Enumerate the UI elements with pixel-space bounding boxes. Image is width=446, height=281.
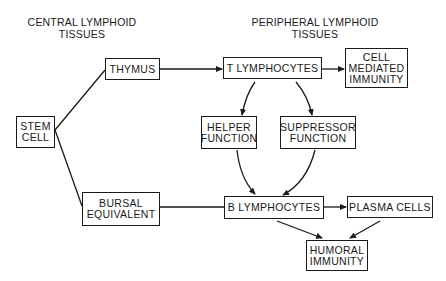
node-bursal-line2: EQUIVALENT [87,209,156,220]
node-bursal-equivalent: BURSAL EQUIVALENT [82,192,160,226]
edge-stem-bursal [55,130,82,206]
node-cmi-line3: IMMUNITY [349,74,405,85]
node-thymus-label: THYMUS [109,64,155,75]
edge-blymph-humoral [277,221,322,238]
node-stem-cell: STEM CELL [16,116,55,148]
node-suppressor-line1: SUPPRESSOR [280,122,356,133]
heading-central-line1: CENTRAL LYMPHOID [22,16,142,28]
node-helper-line1: HELPER [201,122,258,133]
edge-helper-blymph [237,150,255,194]
node-helper-function: HELPER FUNCTION [201,116,257,149]
heading-central-line2: TISSUES [22,28,142,40]
heading-central-lymphoid: CENTRAL LYMPHOID TISSUES [22,16,142,40]
node-humoral-line2: IMMUNITY [310,256,365,267]
node-b-lymphocytes-label: B LYMPHOCYTES [228,202,320,213]
edge-tlymph-suppressor [296,82,312,115]
node-helper-line2: FUNCTION [201,133,258,144]
node-suppressor-line2: FUNCTION [280,133,356,144]
node-t-lymphocytes: T LYMPHOCYTES [223,57,322,79]
edge-stem-thymus [55,70,105,130]
node-b-lymphocytes: B LYMPHOCYTES [224,196,324,219]
node-plasma-cells: PLASMA CELLS [347,196,433,218]
node-t-lymphocytes-label: T LYMPHOCYTES [227,63,319,74]
node-thymus: THYMUS [105,58,160,80]
edge-suppressor-blymph [283,150,315,195]
node-cmi-line2: MEDIATED [349,63,405,74]
heading-peripheral-lymphoid: PERIPHERAL LYMPHOID TISSUES [250,16,380,40]
node-suppressor-function: SUPPRESSOR FUNCTION [280,116,356,149]
heading-peripheral-line1: PERIPHERAL LYMPHOID [250,16,380,28]
node-stem-cell-line2: CELL [20,132,50,143]
edge-plasma-humoral [350,221,380,238]
node-humoral-line1: HUMORAL [310,245,365,256]
node-cmi-line1: CELL [349,52,405,63]
node-plasma-cells-label: PLASMA CELLS [349,202,431,213]
node-humoral-immunity: HUMORAL IMMUNITY [306,240,368,271]
edge-tlymph-helper [242,82,255,115]
heading-peripheral-line2: TISSUES [250,28,380,40]
node-cell-mediated-immunity: CELL MEDIATED IMMUNITY [345,48,408,88]
